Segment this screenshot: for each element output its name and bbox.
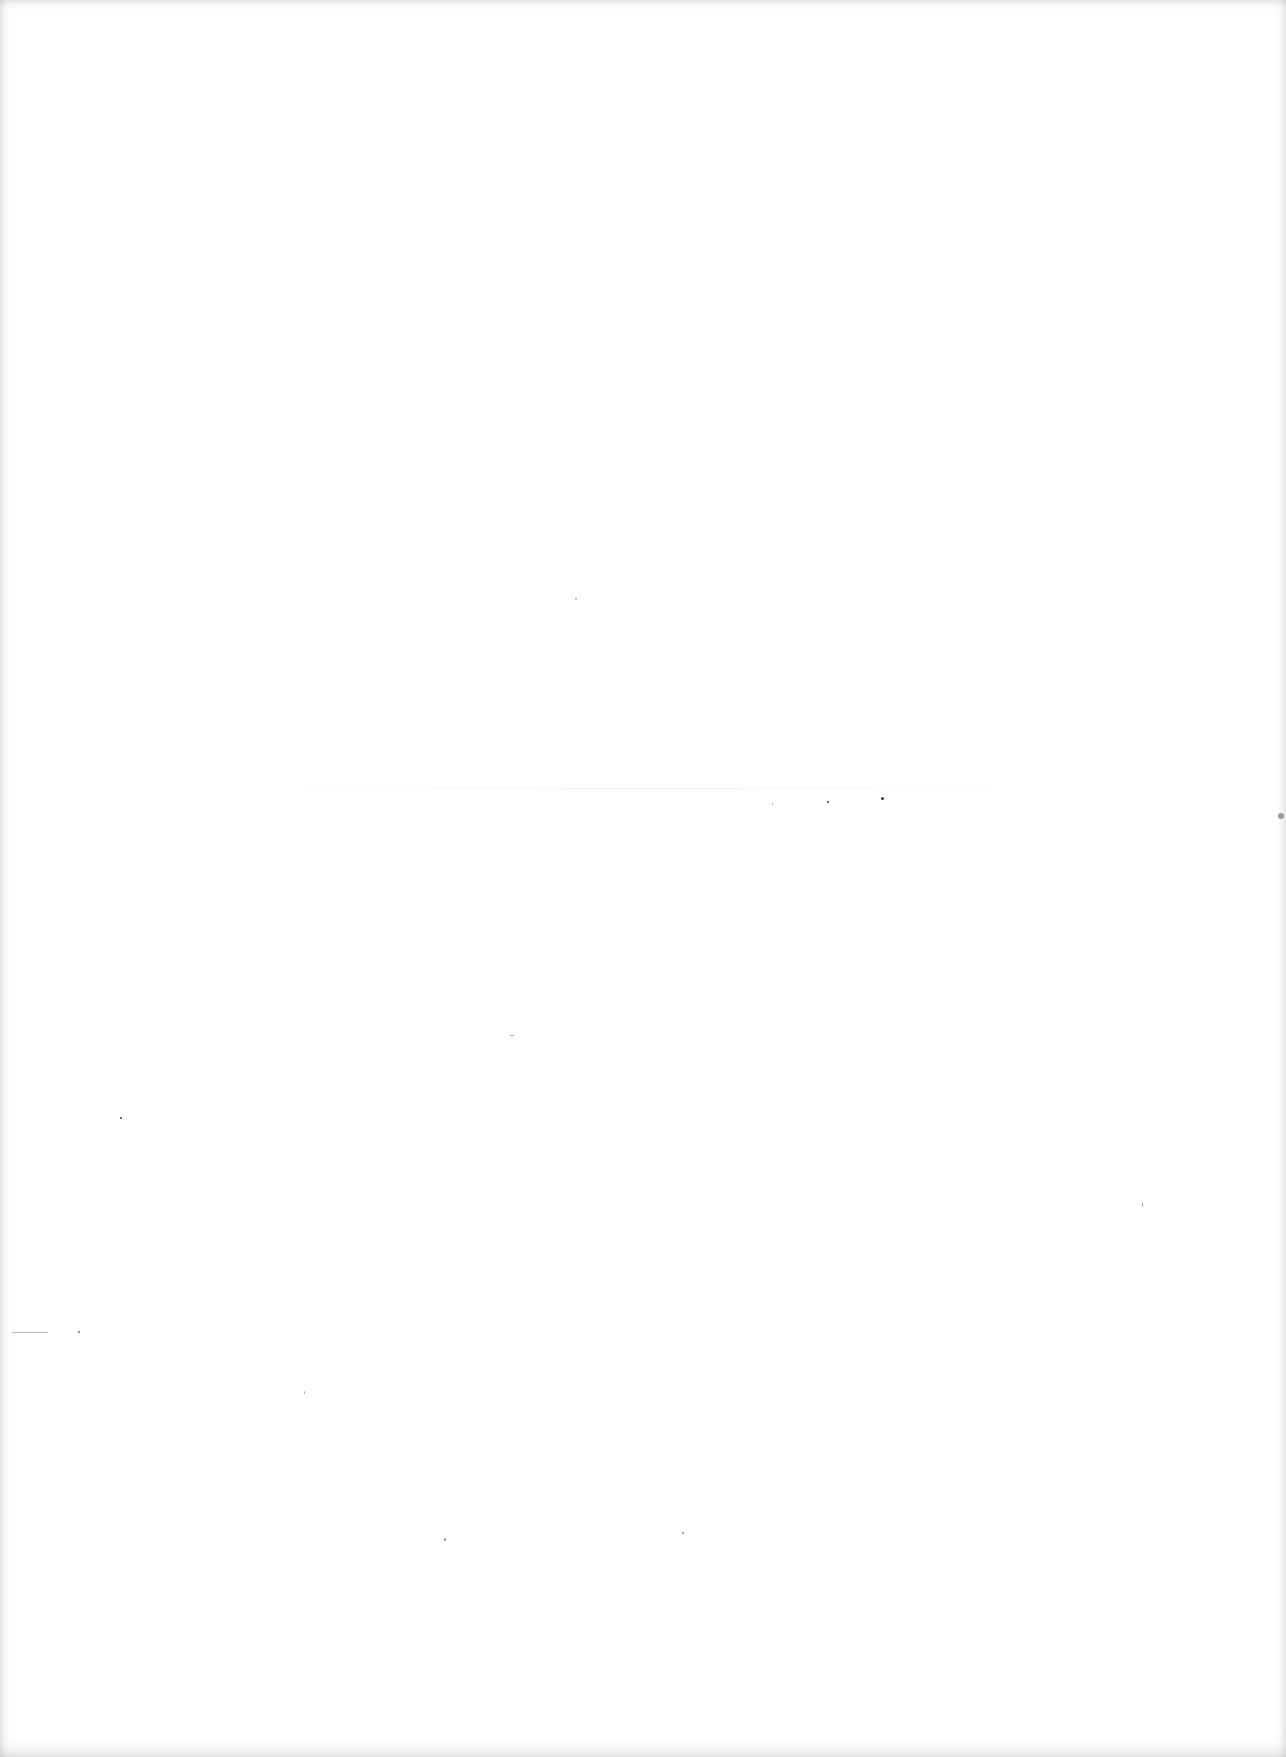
scan-speck	[120, 1117, 122, 1119]
scan-speck	[827, 801, 829, 803]
blank-page	[0, 0, 1286, 1757]
scan-speck	[444, 1538, 446, 1541]
scan-speck	[881, 797, 884, 800]
scan-speck	[510, 1035, 514, 1036]
scan-speck	[682, 1532, 684, 1534]
scan-speck	[772, 803, 773, 805]
scan-artifact-line	[240, 788, 1060, 789]
scan-speck	[575, 597, 577, 600]
scan-speck	[1142, 1203, 1143, 1206]
scan-speck	[78, 1331, 80, 1333]
scan-speck	[304, 1391, 305, 1394]
scan-speck	[12, 1332, 48, 1333]
scan-speck	[1278, 813, 1284, 819]
